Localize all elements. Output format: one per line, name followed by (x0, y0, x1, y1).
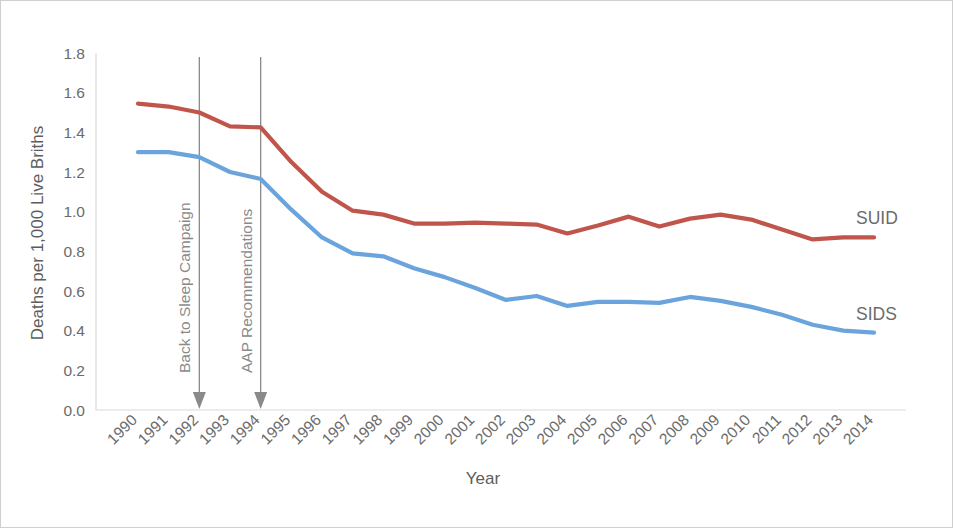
series-label-suid: SUID (856, 208, 898, 228)
x-tick-label: 2010 (717, 411, 754, 448)
x-tick-label: 2004 (533, 411, 570, 448)
x-tick-label: 1991 (134, 411, 170, 447)
series-label-sids: SIDS (856, 304, 897, 324)
x-tick-label: 1994 (226, 411, 263, 448)
y-tick-label: 1.0 (63, 203, 85, 220)
x-tick-label: 2012 (778, 411, 814, 447)
x-tick-label: 2011 (749, 411, 785, 447)
x-tick-label: 2006 (594, 411, 630, 447)
x-tick-label: 1998 (349, 411, 385, 447)
y-tick-label: 0.8 (63, 243, 85, 260)
annotation-arrowhead (193, 392, 206, 409)
y-tick-label: 0.6 (63, 283, 85, 300)
x-tick-label: 1996 (288, 411, 324, 447)
x-tick-label: 1997 (318, 411, 354, 447)
x-tick-label: 1995 (257, 411, 293, 447)
y-tick-label: 1.2 (63, 164, 85, 181)
y-tick-label: 1.8 (63, 45, 85, 62)
annotation-label: AAP Recommendations (238, 208, 255, 373)
x-tick-label: 2005 (564, 411, 600, 447)
y-tick-label: 1.4 (63, 124, 85, 141)
x-tick-label: 2000 (410, 411, 447, 448)
x-tick-label: 1999 (380, 411, 416, 447)
y-tick-label: 0.4 (63, 322, 85, 339)
y-tick-label: 0.2 (63, 362, 85, 379)
x-tick-label: 2009 (686, 411, 722, 447)
x-tick-label: 1993 (196, 411, 232, 447)
chart-figure: 0.00.20.40.60.81.01.21.41.61.8 199019911… (0, 0, 953, 528)
x-tick-label: 2002 (472, 411, 508, 447)
y-axis-tick-labels: 0.00.20.40.60.81.01.21.41.61.8 (63, 45, 85, 419)
y-axis-title: Deaths per 1,000 Live Briths (28, 126, 47, 341)
x-axis-title: Year (466, 469, 501, 488)
annotation-arrowhead (254, 392, 267, 409)
x-tick-label: 1992 (165, 411, 201, 447)
x-tick-label: 2007 (625, 411, 661, 447)
x-tick-label: 2014 (840, 411, 877, 448)
x-tick-label: 2001 (441, 411, 477, 447)
y-tick-label: 0.0 (63, 402, 85, 419)
x-tick-label: 2013 (809, 411, 845, 447)
y-tick-label: 1.6 (63, 84, 85, 101)
annotation-label: Back to Sleep Campaign (176, 202, 193, 373)
line-chart: 0.00.20.40.60.81.01.21.41.61.8 199019911… (1, 1, 953, 528)
x-axis-tick-labels: 1990199119921993199419951996199719981999… (104, 411, 877, 448)
x-tick-label: 1990 (104, 411, 141, 448)
series-end-labels: SUIDSIDS (856, 208, 898, 323)
x-tick-label: 2003 (502, 411, 538, 447)
x-tick-label: 2008 (656, 411, 692, 447)
